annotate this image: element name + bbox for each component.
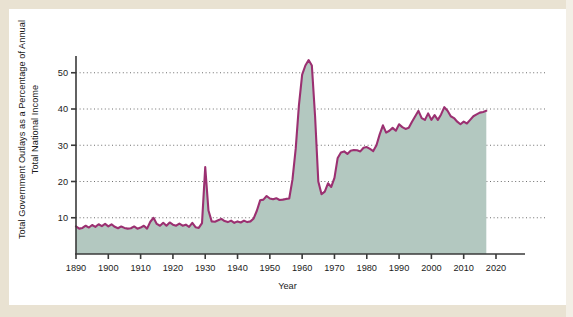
x-axis-title: Year	[9, 281, 566, 291]
y-tick-label-10: 10	[58, 213, 68, 223]
y-tick-label-50: 50	[58, 68, 68, 78]
x-tick-label-1990: 1990	[389, 263, 409, 273]
x-tick-label-2010: 2010	[453, 263, 473, 273]
x-tick-label-1940: 1940	[227, 263, 247, 273]
area-fill	[76, 60, 486, 254]
chart-figure: 1020304050189019001910192019301940195019…	[9, 9, 566, 305]
x-tick-label-1970: 1970	[324, 263, 344, 273]
x-axis-ticks: 1890190019101920193019401950196019701980…	[66, 254, 506, 273]
area-chart: 1020304050189019001910192019301940195019…	[9, 9, 566, 305]
x-tick-label-1980: 1980	[357, 263, 377, 273]
figure-page: 1020304050189019001910192019301940195019…	[0, 0, 573, 317]
x-tick-label-1930: 1930	[195, 263, 215, 273]
y-tick-label-20: 20	[58, 177, 68, 187]
page-margin-top	[0, 0, 573, 9]
x-tick-label-1910: 1910	[130, 263, 150, 273]
x-tick-label-1960: 1960	[292, 263, 312, 273]
x-tick-label-1900: 1900	[98, 263, 118, 273]
x-tick-label-1920: 1920	[163, 263, 183, 273]
x-tick-label-2020: 2020	[486, 263, 506, 273]
y-tick-label-30: 30	[58, 141, 68, 151]
x-tick-label-1950: 1950	[260, 263, 280, 273]
y-axis-ticks: 1020304050	[58, 68, 76, 223]
x-tick-label-1890: 1890	[66, 263, 86, 273]
x-tick-label-2000: 2000	[421, 263, 441, 273]
y-axis-title: Total Government Outlays as a Percentage…	[16, 15, 41, 245]
page-margin-left	[0, 0, 9, 317]
page-margin-bottom	[0, 305, 573, 317]
y-tick-label-40: 40	[58, 104, 68, 114]
page-margin-right	[566, 0, 573, 317]
